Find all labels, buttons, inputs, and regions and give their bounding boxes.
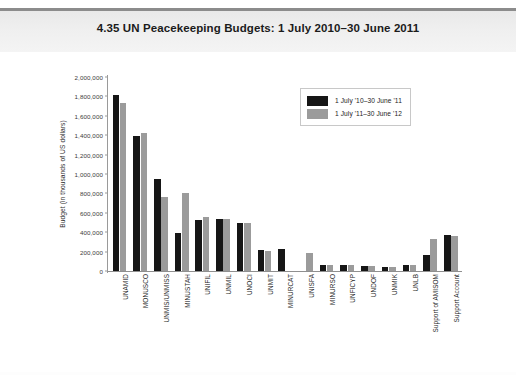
legend-label: 1 July '10–30 June '11	[335, 97, 402, 104]
y-axis-tick-mark	[105, 232, 108, 233]
bar	[182, 193, 189, 271]
x-axis-category-label: MONUSCO	[142, 274, 149, 308]
bar	[237, 223, 244, 271]
y-axis-tick-label: 1,000,000	[75, 171, 103, 178]
bar-group	[423, 77, 437, 271]
legend-swatch	[307, 109, 328, 119]
bar-group	[133, 77, 147, 271]
x-axis-category-label: UNISFA	[308, 274, 315, 298]
x-axis-category-label: UNFICYP	[349, 274, 356, 303]
bar	[430, 239, 437, 271]
y-axis-tick-label: 1,800,000	[75, 93, 103, 100]
bar	[340, 265, 347, 271]
x-axis-category-label: MINURCAT	[287, 274, 294, 308]
bar	[361, 266, 368, 271]
bar	[368, 266, 375, 271]
x-axis-category-label: UNAMID	[122, 274, 129, 300]
bar	[423, 255, 430, 271]
bar	[444, 235, 451, 271]
bar	[278, 249, 285, 271]
bar	[327, 265, 334, 271]
bar	[113, 95, 120, 271]
bar	[161, 197, 168, 271]
x-axis-category-label: UNMIK	[391, 274, 398, 295]
y-axis-title: Budget (in thousands of US dollars)	[59, 120, 66, 228]
bar	[258, 250, 265, 271]
y-axis-tick-label: 800,000	[80, 190, 103, 197]
bar-group	[444, 77, 458, 271]
x-axis-category-label: MINUSTAH	[184, 274, 191, 308]
bar-group	[154, 77, 168, 271]
x-axis-category-label: UNMIT	[267, 274, 274, 295]
y-axis-tick-label: 1,400,000	[75, 132, 103, 139]
bar-group	[113, 77, 127, 271]
bar	[154, 179, 161, 271]
legend-item: 1 July '11–30 June '12	[307, 107, 402, 120]
bar	[133, 136, 140, 271]
y-axis-tick-mark	[105, 96, 108, 97]
bar-group	[216, 77, 230, 271]
bar	[203, 217, 210, 271]
bar	[451, 236, 458, 271]
chart-canvas: Budget (in thousands of US dollars) 0200…	[0, 52, 516, 375]
y-axis-tick-mark	[105, 77, 108, 78]
x-axis-category-label: UNDOF	[370, 274, 377, 297]
x-axis-category-label: UNLB	[412, 274, 419, 291]
y-axis-tick-label: 2,000,000	[75, 74, 103, 81]
y-axis-tick-mark	[105, 212, 108, 213]
bar	[120, 103, 127, 271]
x-axis-category-label: MINURSO	[329, 274, 336, 305]
y-axis-tick-mark	[105, 135, 108, 136]
bar-group	[237, 77, 251, 271]
y-axis-tick-label: 1,600,000	[75, 112, 103, 119]
y-axis-tick-label: 200,000	[80, 248, 103, 255]
bar-group	[195, 77, 209, 271]
bar	[320, 265, 327, 271]
bar	[410, 265, 417, 271]
y-axis-tick-mark	[105, 251, 108, 252]
y-axis-tick-mark	[105, 115, 108, 116]
x-axis-category-label: UNOCI	[246, 274, 253, 295]
bar	[306, 253, 313, 271]
x-axis-category-label: Support of AMISOM	[432, 274, 439, 333]
chart-legend: 1 July '10–30 June '111 July '11–30 June…	[300, 88, 411, 126]
bar	[265, 251, 272, 271]
bar	[244, 223, 251, 272]
bar	[195, 220, 202, 271]
bar	[403, 265, 410, 271]
y-axis-tick-label: 0	[99, 268, 103, 275]
x-axis-category-label: UNIFIL	[204, 274, 211, 295]
bar	[216, 219, 223, 271]
bar	[141, 133, 148, 271]
y-axis-tick-label: 1,200,000	[75, 151, 103, 158]
bar-group	[278, 77, 292, 271]
y-axis-tick-mark	[105, 154, 108, 155]
bar-group	[258, 77, 272, 271]
y-axis-tick-mark	[105, 174, 108, 175]
y-axis-tick-label: 600,000	[80, 209, 103, 216]
bar	[175, 233, 182, 271]
x-axis-category-label: UNMIL	[225, 274, 232, 294]
x-axis-category-label: Support Account	[453, 274, 460, 322]
bar	[382, 267, 389, 271]
y-axis-tick-mark	[105, 193, 108, 194]
bar	[348, 265, 355, 271]
legend-label: 1 July '11–30 June '12	[335, 110, 402, 117]
y-axis-tick-label: 400,000	[80, 229, 103, 236]
legend-swatch	[307, 96, 328, 106]
bar-group	[175, 77, 189, 271]
y-axis-tick-mark	[105, 271, 108, 272]
bar	[223, 219, 230, 271]
x-axis-line	[107, 271, 462, 272]
x-axis-category-label: UNMIS/UNMISS	[163, 274, 170, 322]
page-title: 4.35 UN Peacekeeping Budgets: 1 July 201…	[0, 22, 516, 34]
bar	[389, 267, 396, 271]
legend-item: 1 July '10–30 June '11	[307, 94, 402, 107]
